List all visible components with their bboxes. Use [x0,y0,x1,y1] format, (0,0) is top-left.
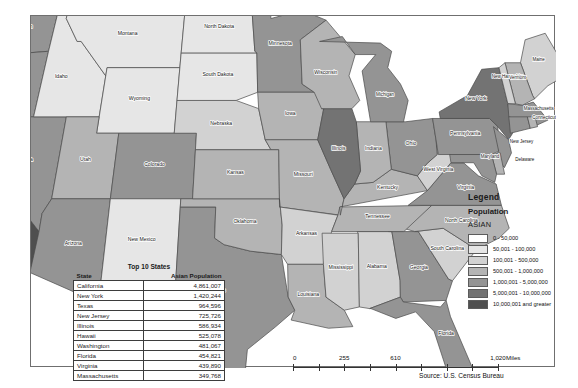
legend-row: 10,000,001 and greater [468,299,578,309]
state-label-wa: Washington [31,23,33,29]
legend-label: 0 - 50,000 [493,235,518,241]
scale-bar-tick [421,364,422,371]
state-label-ia: Iowa [285,110,296,116]
scale-bar-tick [370,364,371,371]
state-label-az: Arizona [65,240,82,246]
state-label-me: Maine [532,57,545,62]
legend-row: 1,000,001 - 5,000,000 [468,277,578,287]
table-body: California4,861,007New York1,420,244Texa… [74,281,225,381]
legend-subtitle: Population [468,207,578,216]
cell-population: 1,420,244 [143,291,224,301]
scale-bar-tick [447,364,448,371]
scale-bar-label: 255 [339,354,349,361]
cell-state: Florida [74,351,144,361]
cell-population: 439,890 [143,361,224,371]
table-row: New York1,420,244 [74,291,225,301]
state-nd[interactable] [181,16,257,53]
table-row: Illinois586,934 [74,321,225,331]
cell-population: 725,726 [143,311,224,321]
state-label-mi: Michigan [376,92,395,97]
legend-swatch [468,289,488,298]
scale-bar-label: 610 [390,354,400,361]
scale-bar: 02556101,020Miles [293,354,508,372]
legend-category: ASIAN [468,220,578,229]
scale-bar-line [293,364,508,372]
cell-state: New Jersey [74,311,144,321]
cell-population: 964,596 [143,301,224,311]
state-label-ok: Oklahoma [233,218,256,224]
state-label-sd: South Dakota [202,71,233,77]
state-label-pa: Pennsylvania [450,130,480,136]
state-label-ne: Nebraska [210,120,232,126]
state-label-al: Alabama [367,263,387,269]
table-title: Top 10 States [73,263,225,270]
state-label-mn: Minnesota [268,40,292,46]
cell-state: Illinois [74,321,144,331]
legend-row: 5,000,001 - 10,000,000 [468,288,578,298]
state-label-wy: Wyoming [129,95,150,101]
state-label-de: Delaware [515,157,535,162]
state-label-sc: South Carolina [430,245,464,251]
legend-row: 50,001 - 100,000 [468,244,578,254]
legend-label: 50,001 - 100,000 [493,246,535,252]
cell-population: 349,768 [143,371,224,381]
scale-bar-tick [293,364,294,371]
state-label-nv: Nevada [31,156,33,162]
table: State Asian Population California4,861,0… [73,272,225,381]
table-header-row: State Asian Population [74,272,225,281]
state-label-id: Idaho [55,73,68,79]
legend-label: 500,001 - 1,000,000 [493,268,543,274]
state-label-la: Louisiana [297,291,319,297]
table-row: Virginia439,890 [74,361,225,371]
legend-label: 1,000,001 - 5,000,000 [493,279,548,285]
top-10-states-table: Top 10 States State Asian Population Cal… [73,263,225,381]
scale-bar-label: 1,020 [490,354,505,361]
cell-state: California [74,281,144,291]
state-label-oh: Ohio [406,140,417,146]
state-label-ms: Mississippi [329,264,354,270]
cell-population: 454,821 [143,351,224,361]
state-label-tn: Tennessee [365,213,390,219]
table-row: Hawaii525,078 [74,331,225,341]
state-label-md: Maryland [481,154,500,159]
cell-state: Washington [74,341,144,351]
state-label-mo: Missouri [294,171,313,177]
table-row: Massachusetts349,768 [74,371,225,381]
table-row: Florida454,821 [74,351,225,361]
legend-swatch [468,234,488,243]
state-label-ks: Kansas [227,169,244,175]
state-ct[interactable] [509,117,530,133]
state-ms[interactable] [322,233,359,310]
legend-row: 100,001 - 500,000 [468,255,578,265]
state-label-fl: Florida [438,330,454,336]
state-label-ma: Massachusetts [524,106,555,111]
state-label-wv: West Virginia [424,166,454,172]
legend-label: 10,000,001 and greater [493,301,551,307]
state-label-ga: Georgia [410,264,428,270]
state-label-co: Colorado [144,161,165,167]
table-row: New Jersey725,726 [74,311,225,321]
cell-state: Virginia [74,361,144,371]
source-credit: Source: U.S. Census Bureau [419,372,504,379]
legend-label: 100,001 - 500,000 [493,257,538,263]
scale-bar-units: Miles [506,354,520,361]
state-label-in: Indiana [365,145,382,151]
legend-row: 0 - 50,000 [468,233,578,243]
legend-label: 5,000,001 - 10,000,000 [493,290,551,296]
state-pa[interactable] [433,118,499,154]
state-label-nj: New Jersey [510,139,534,144]
state-label-ny: New York [465,95,487,101]
legend-swatch [468,256,488,265]
legend-swatch [468,267,488,276]
table-row: Texas964,596 [74,301,225,311]
scale-bar-label: 0 [293,354,296,361]
scale-bar-tick [498,364,499,371]
state-label-wi: Wisconsin [314,69,337,75]
state-label-va: Virginia [457,184,474,190]
state-label-ct: Connecticut [532,115,556,120]
state-label-ky: Kentucky [377,184,398,190]
cell-state: Massachusetts [74,371,144,381]
state-label-il: Illinois [331,145,346,151]
state-label-nd: North Dakota [204,23,234,29]
scale-bar-tick [396,364,397,371]
